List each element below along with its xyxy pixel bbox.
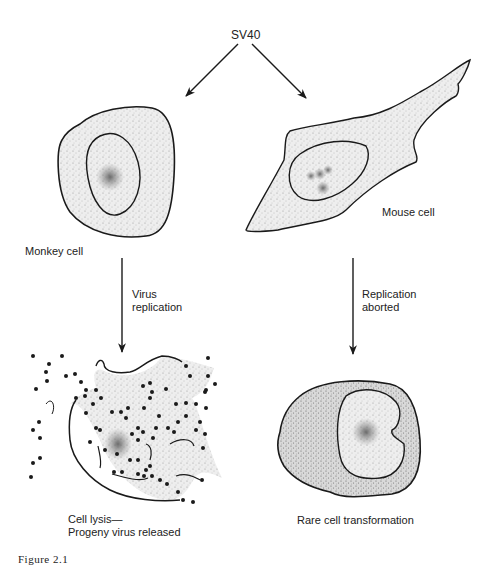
sv40-label: SV40 xyxy=(231,29,260,42)
process-line-1: Virus xyxy=(132,288,182,301)
replication-aborted-label: Replication aborted xyxy=(362,288,416,314)
transformed-cell-drawing xyxy=(278,381,420,497)
process-line-2: replication xyxy=(132,301,182,314)
monkey-cell-drawing xyxy=(58,107,174,237)
rare-cell-transformation-label: Rare cell transformation xyxy=(297,514,414,527)
outcome-line-1: Cell lysis— xyxy=(68,513,181,526)
process-line-2: aborted xyxy=(362,301,416,314)
figure-caption: Figure 2.1 xyxy=(18,553,68,565)
process-line-1: Replication xyxy=(362,288,416,301)
arrow-to-mouse-cell xyxy=(252,44,306,98)
arrow-to-monkey-cell xyxy=(186,44,238,96)
mouse-cell-label: Mouse cell xyxy=(382,206,435,219)
mouse-cell-drawing xyxy=(246,60,470,232)
cell-lysis-label: Cell lysis— Progeny virus released xyxy=(68,513,181,539)
outcome-line-2: Progeny virus released xyxy=(68,526,181,539)
monkey-cell-label: Monkey cell xyxy=(25,245,83,258)
virus-replication-label: Virus replication xyxy=(132,288,182,314)
